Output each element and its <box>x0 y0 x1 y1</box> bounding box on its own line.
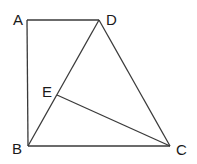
segment-dc <box>99 20 170 146</box>
geometry-diagram: A D E B C <box>0 0 197 164</box>
vertex-labels: A D E B C <box>12 11 187 158</box>
label-b: B <box>12 140 22 157</box>
segment-bd <box>28 20 99 146</box>
label-d: D <box>106 11 117 28</box>
label-e: E <box>42 83 52 100</box>
segment-ec <box>57 95 170 146</box>
segment-ab <box>27 20 28 146</box>
label-c: C <box>176 141 187 158</box>
label-a: A <box>13 11 23 28</box>
